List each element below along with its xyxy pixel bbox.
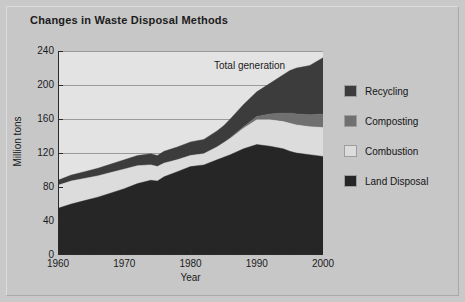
y-tick-label: 40	[43, 215, 54, 226]
x-axis-label: Year	[58, 272, 323, 283]
y-axis-label: Million tons	[12, 94, 23, 190]
plot-area	[58, 51, 323, 255]
legend-item-label: Combustion	[365, 146, 418, 157]
legend-swatch-icon	[344, 145, 357, 157]
legend-swatch-icon	[344, 115, 357, 127]
y-tick-label: 120	[37, 147, 54, 158]
x-tick-label: 1960	[47, 258, 69, 269]
x-tick-label: 1990	[246, 258, 268, 269]
legend-item-combustion[interactable]: Combustion	[344, 136, 456, 166]
total-generation-annotation: Total generation	[214, 60, 285, 71]
legend-item-label: Land Disposal	[365, 176, 428, 187]
y-tick-label: 240	[37, 45, 54, 56]
legend-swatch-icon	[344, 85, 357, 97]
stacked-area-plot	[58, 51, 323, 255]
y-tick-label: 80	[43, 181, 54, 192]
x-axis-tick-labels: 19601970198019902000	[58, 258, 323, 272]
chart-screenshot: Changes in Waste Disposal Methods 240200…	[0, 0, 465, 302]
x-tick-label: 1970	[113, 258, 135, 269]
legend-item-recycling[interactable]: Recycling	[344, 76, 456, 106]
legend-item-composting[interactable]: Composting	[344, 106, 456, 136]
y-tick-label: 160	[37, 113, 54, 124]
legend-item-label: Recycling	[365, 86, 408, 97]
x-tick-label: 2000	[312, 258, 334, 269]
x-tick-label: 1980	[179, 258, 201, 269]
legend-swatch-icon	[344, 175, 357, 187]
legend-item-land-disposal[interactable]: Land Disposal	[344, 166, 456, 196]
legend-item-label: Composting	[365, 116, 418, 127]
chart-legend: RecyclingCompostingCombustionLand Dispos…	[344, 76, 456, 196]
chart-title: Changes in Waste Disposal Methods	[30, 14, 228, 26]
y-axis-tick-labels: 24020016012080400	[18, 51, 54, 255]
y-tick-label: 200	[37, 79, 54, 90]
